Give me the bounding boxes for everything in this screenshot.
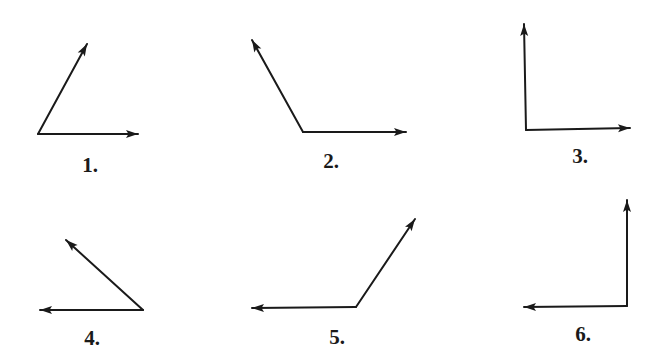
- arrowhead-icon: [405, 219, 415, 231]
- ray-1: [38, 44, 87, 134]
- ray-1: [66, 240, 143, 310]
- figure-label: 2.: [323, 149, 339, 173]
- figure-label: 3.: [572, 144, 588, 168]
- figure-label: 1.: [82, 153, 98, 177]
- figure-label: 5.: [329, 325, 345, 349]
- figure-label: 6.: [575, 322, 591, 346]
- ray-1: [252, 40, 303, 132]
- angle-diagram: 1.2.3.4.5.6.: [0, 0, 668, 358]
- ray-2: [526, 128, 630, 130]
- ray-2: [252, 307, 356, 308]
- figures-layer: 1.2.3.4.5.6.: [38, 24, 631, 350]
- ray-1: [356, 219, 415, 307]
- angle-figure-6: 6.: [524, 200, 631, 346]
- angle-figure-3: 3.: [520, 24, 630, 168]
- angle-figure-4: 4.: [40, 240, 143, 350]
- ray-2: [524, 306, 627, 307]
- angle-figure-2: 2.: [252, 40, 406, 173]
- arrowhead-icon: [252, 40, 261, 52]
- angle-figure-1: 1.: [38, 44, 138, 177]
- figure-label: 4.: [84, 326, 100, 350]
- ray-1: [524, 24, 526, 130]
- angle-figure-5: 5.: [252, 219, 415, 349]
